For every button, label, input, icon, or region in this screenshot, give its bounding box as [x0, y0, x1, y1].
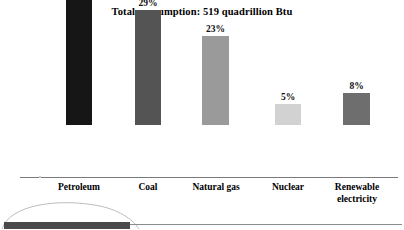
bar-rect-petroleum — [66, 0, 92, 125]
category-label-nuclear: Nuclear — [257, 181, 319, 193]
bar-value-label: 29% — [139, 0, 158, 9]
category-label-line1: Natural gas — [192, 182, 239, 192]
category-label-line2: electricity — [337, 194, 377, 204]
category-label-line1: Coal — [139, 182, 158, 192]
bar-rect-renewable-electricity — [343, 93, 370, 125]
bar-group-nuclear: 5% — [275, 104, 301, 125]
bar-group-coal: 29% — [135, 10, 161, 125]
bar-value-label: 23% — [206, 24, 225, 35]
bar-value-label: 5% — [281, 92, 295, 103]
page-edge-bar-artifact — [4, 222, 130, 229]
category-label-line1: Petroleum — [58, 182, 100, 192]
page-edge-rule-artifact — [130, 224, 402, 225]
category-label-petroleum: Petroleum — [43, 181, 115, 193]
x-axis-line — [20, 177, 398, 178]
bar-group-natural-gas: 23% — [202, 36, 229, 125]
category-label-line1: Nuclear — [272, 182, 304, 192]
bar-rect-nuclear — [275, 104, 301, 125]
bar-group-renewable-electricity: 8% — [343, 93, 370, 125]
category-label-natural-gas: Natural gas — [181, 181, 251, 193]
bar-chart-figure: Total consumption: 519 quadrillion Btu 3… — [0, 0, 404, 230]
bar-rect-coal — [135, 10, 161, 125]
scan-speck-artifact — [39, 176, 41, 178]
category-label-coal: Coal — [122, 181, 174, 193]
category-label-line1: Renewable — [335, 182, 379, 192]
plot-area: 34% 29% 23% 5% 8% — [0, 0, 404, 178]
bar-value-label: 8% — [349, 81, 363, 92]
category-label-renewable-electricity: Renewable electricity — [322, 181, 392, 205]
bar-rect-natural-gas — [202, 36, 229, 125]
bar-group-petroleum: 34% — [66, 0, 92, 125]
